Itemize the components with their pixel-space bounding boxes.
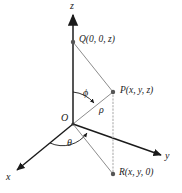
x-axis-line xyxy=(17,124,73,170)
x-axis-label: x xyxy=(6,172,10,182)
z-axis-label: z xyxy=(70,1,74,11)
segment-qp xyxy=(73,42,113,92)
point-r-dot xyxy=(111,172,115,176)
rho-segment-label: ρ xyxy=(99,105,104,115)
segment-op-rho xyxy=(73,92,113,124)
point-p-label: P(x, y, z) xyxy=(120,86,153,96)
point-q-dot xyxy=(71,40,75,44)
origin-dot xyxy=(71,122,74,125)
phi-angle-label: ϕ xyxy=(83,88,88,98)
spherical-coordinates-figure: z y x O Q(0, 0, z) P(x, y, z) R(x, y, 0)… xyxy=(0,0,182,193)
point-r-label: R(x, y, 0) xyxy=(119,168,153,178)
theta-angle-label: θ xyxy=(67,138,72,148)
point-p-dot xyxy=(111,90,115,94)
y-axis-line xyxy=(73,124,161,155)
y-axis-label: y xyxy=(165,151,169,161)
point-q-label: Q(0, 0, z) xyxy=(79,35,115,45)
origin-label: O xyxy=(61,113,68,123)
figure-canvas xyxy=(0,0,182,193)
